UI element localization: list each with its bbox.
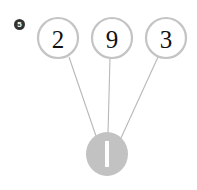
node-label-2: 9 [106,26,119,53]
diagram-canvas: 5 2 9 3 [0,0,197,190]
node-group: 2 9 3 [38,18,186,58]
node-label-1: 2 [52,26,65,53]
target-node[interactable] [86,132,128,176]
target-node-bar-icon [105,141,109,167]
node-label-3: 3 [160,26,173,53]
edge-node1-to-target [69,57,96,136]
number-node-3[interactable]: 3 [146,18,186,58]
number-node-2[interactable]: 9 [92,18,132,58]
edge-node2-to-target [108,58,110,133]
number-node-1[interactable]: 2 [38,18,78,58]
edge-node3-to-target [121,57,158,138]
edge-group [69,57,158,138]
number-bond-diagram: 2 9 3 [0,0,197,190]
